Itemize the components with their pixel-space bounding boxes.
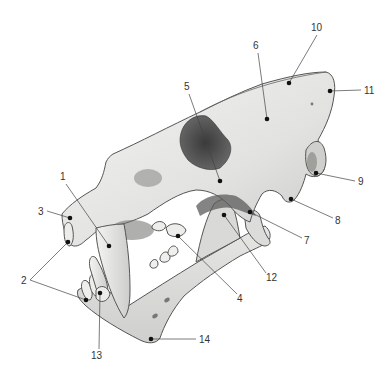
label-number: 2 (21, 275, 27, 286)
cranium (62, 72, 335, 246)
label-8: 8 (289, 197, 341, 226)
pointer-dot (248, 210, 253, 215)
pointer-dot (218, 179, 223, 184)
pointer-dot (107, 244, 112, 249)
label-number: 14 (199, 334, 211, 345)
label-number: 5 (184, 81, 190, 92)
pointer-dot (265, 117, 270, 122)
pointer-dot (314, 171, 319, 176)
pointer-dot (66, 240, 71, 245)
label-number: 7 (304, 235, 310, 246)
pointer-dot (176, 234, 181, 239)
label-number: 3 (38, 206, 44, 217)
pointer-dot (222, 213, 227, 218)
label-number: 13 (91, 350, 103, 361)
pointer-dot (98, 291, 103, 296)
skull-diagram: 1 2 3 4 5 6 (0, 0, 392, 382)
label-number: 6 (253, 40, 259, 51)
label-number: 10 (311, 22, 323, 33)
label-number: 12 (266, 272, 278, 283)
pointer-dot (287, 81, 292, 86)
label-number: 11 (364, 85, 375, 96)
pointer-dot (84, 298, 89, 303)
pointer-dot (328, 89, 333, 94)
label-number: 4 (237, 293, 243, 304)
label-number: 8 (335, 215, 341, 226)
upper-cheek-teeth (152, 222, 186, 237)
label-number: 9 (358, 176, 364, 187)
pointer-dot (289, 197, 294, 202)
label-number: 1 (60, 171, 66, 182)
pointer-dot (149, 337, 154, 342)
pointer-dot (68, 216, 73, 221)
